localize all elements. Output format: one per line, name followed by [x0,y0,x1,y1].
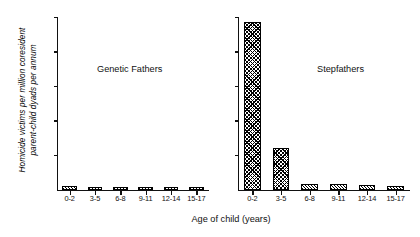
x-axis-line-right [238,190,410,191]
panel-genetic-fathers: 0-23-56-89-1112-1415-17 [47,0,212,210]
x-tick-label: 0-2 [64,194,74,203]
bar [62,186,77,189]
x-tick-label: 3-5 [276,194,286,203]
y-axis-label-line2: parent-child dyads per annum [28,28,39,173]
bar [189,187,204,189]
x-tick-label: 12-14 [358,194,376,203]
x-tick-label: 12-14 [162,194,180,203]
x-tick-label: 3-5 [90,194,100,203]
panel-title-stepfathers: Stepfathers [317,64,364,74]
bar [88,187,103,190]
y-axis-label-line1: Homicide victims per million coresident [18,28,27,173]
x-axis-label: Age of child (years) [0,214,420,224]
panel-title-genetic-fathers: Genetic Fathers [97,64,162,74]
x-tick-label: 6-8 [304,194,314,203]
bar [164,187,179,189]
bar [301,184,318,189]
chart-figure: Homicide victims per million coresident … [0,0,420,237]
bar [273,148,290,190]
bar-group-genetic-fathers [57,17,210,190]
bar-group-stepfathers [238,17,411,190]
plot-area-genetic-fathers [57,17,210,191]
bar [138,187,153,189]
panel-stepfathers: 0-23-56-89-1112-1415-17 [228,0,413,210]
x-tick-label: 0-2 [247,194,257,203]
x-axis-line-left [57,190,209,191]
bar [359,185,376,189]
bar [113,187,128,189]
bar [244,22,261,190]
x-tick-label: 9-11 [331,194,345,203]
bar [387,186,404,189]
x-tick-label: 9-11 [139,194,153,203]
x-tick-label: 15-17 [386,194,404,203]
x-tick-label: 15-17 [187,194,205,203]
plot-area-stepfathers [238,17,411,191]
x-tick-label: 6-8 [115,194,125,203]
bar [330,184,347,189]
